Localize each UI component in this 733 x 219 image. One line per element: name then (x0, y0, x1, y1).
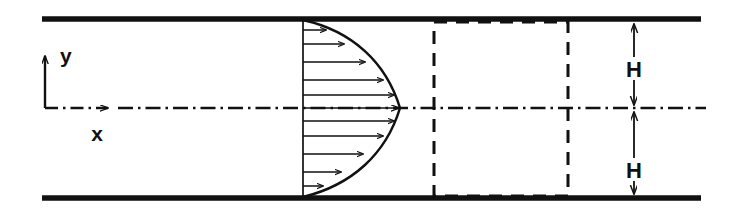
y-axis-label: y (60, 44, 72, 67)
coordinate-axes: y x (45, 44, 108, 145)
velocity-profile (303, 20, 400, 197)
velocity-arrows-lower (303, 121, 394, 186)
dimension-label-upper: H (626, 57, 642, 82)
channel-flow-diagram: y x (0, 0, 733, 219)
x-axis-label: x (91, 122, 103, 145)
diagram-canvas: y x (0, 0, 733, 219)
dimension-label-lower: H (626, 158, 642, 183)
